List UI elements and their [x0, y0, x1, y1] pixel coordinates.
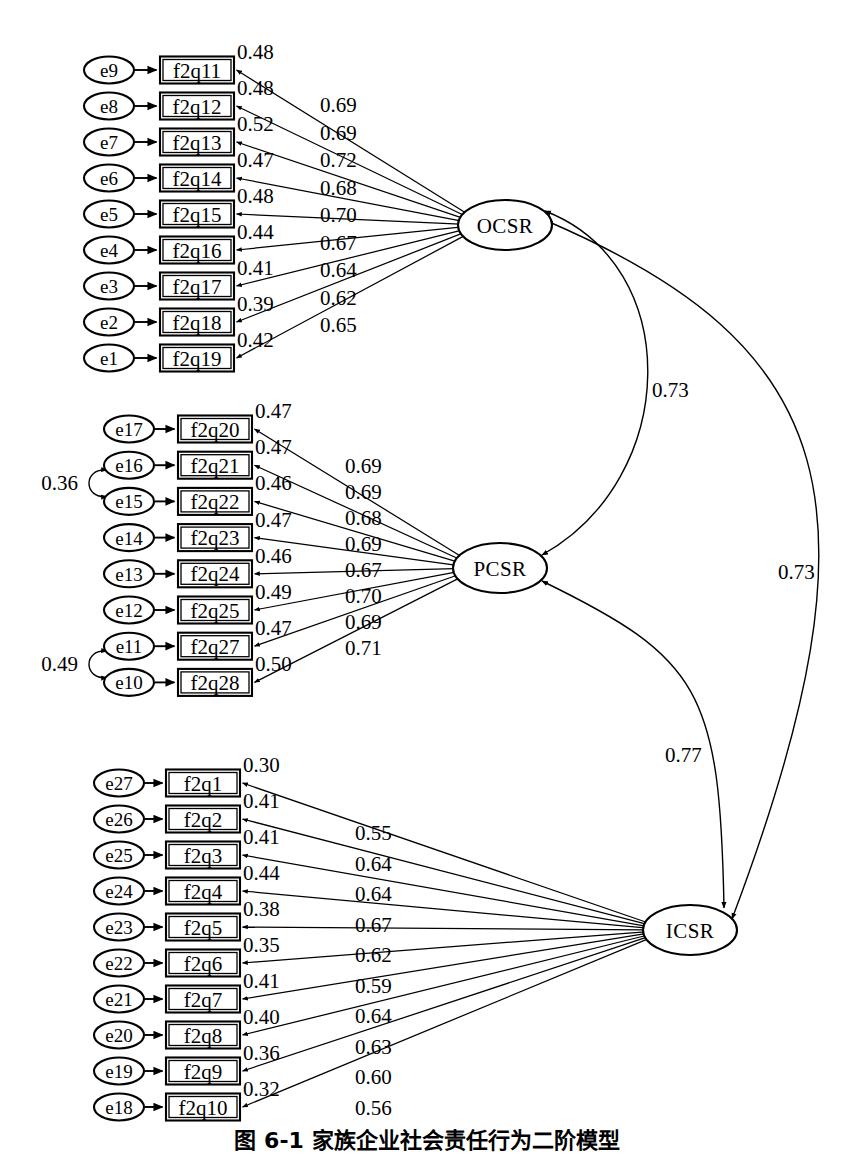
factor-loading-arrow: [243, 783, 648, 923]
error-label: e15: [115, 491, 142, 512]
r-squared-label: 0.47: [255, 616, 292, 640]
r-squared-label: 0.46: [255, 471, 292, 495]
loading-value-label: 0.64: [355, 882, 392, 906]
loading-value-label: 0.72: [320, 148, 357, 172]
error-covariance-label: 0.36: [41, 471, 78, 495]
r-squared-label: 0.47: [255, 435, 292, 459]
r-squared-label: 0.30: [243, 753, 280, 777]
loading-value-label: 0.64: [320, 258, 357, 282]
error-label: e9: [100, 60, 118, 81]
factor-correlation-label-ocsr-icsr: 0.73: [778, 560, 815, 584]
loading-value-label: 0.55: [355, 821, 392, 845]
error-label: e5: [100, 204, 118, 225]
indicator-label: f2q22: [191, 490, 240, 514]
figure-caption: 图 6-1 家族企业社会责任行为二阶模型: [234, 1128, 619, 1153]
loading-value-label: 0.62: [320, 286, 357, 310]
indicator-label: f2q15: [173, 203, 222, 227]
error-label: e20: [105, 1025, 132, 1046]
error-label: e10: [115, 672, 142, 693]
factor-loading-arrow: [243, 934, 646, 999]
loading-value-label: 0.63: [355, 1035, 392, 1059]
error-label: e11: [116, 636, 143, 657]
sem-path-diagram: f2q11e9f2q12e8f2q13e7f2q14e6f2q15e5f2q16…: [0, 0, 854, 1156]
indicator-label: f2q21: [191, 454, 240, 478]
loading-value-label: 0.70: [320, 203, 357, 227]
error-label: e27: [105, 773, 132, 794]
factor-correlation-label-pcsr-icsr: 0.77: [665, 743, 702, 767]
error-label: e2: [100, 312, 118, 333]
loading-value-label: 0.67: [320, 231, 357, 255]
r-squared-label: 0.48: [237, 76, 274, 100]
factor-loading-arrow: [243, 855, 646, 926]
error-label: e4: [100, 240, 118, 261]
loading-value-label: 0.62: [355, 943, 392, 967]
factor-loading-arrow: [243, 939, 649, 1107]
indicator-label: f2q1: [184, 772, 223, 796]
nodes-layer: f2q11e9f2q12e8f2q13e7f2q14e6f2q15e5f2q16…: [84, 57, 737, 1121]
r-squared-label: 0.39: [237, 292, 274, 316]
error-label: e8: [100, 96, 118, 117]
loading-value-label: 0.70: [345, 584, 382, 608]
indicator-label: f2q27: [191, 635, 240, 659]
indicator-label: f2q18: [173, 311, 222, 335]
factor-loading-arrow: [243, 819, 647, 924]
indicator-label: f2q9: [184, 1060, 223, 1084]
error-label: e19: [105, 1061, 132, 1082]
loading-value-label: 0.64: [355, 852, 392, 876]
error-covariance-arc: [89, 470, 107, 497]
indicator-label: f2q17: [173, 275, 222, 299]
loading-value-label: 0.69: [345, 480, 382, 504]
r-squared-label: 0.32: [243, 1077, 280, 1101]
r-squared-label: 0.44: [243, 861, 280, 885]
r-squared-label: 0.41: [243, 789, 280, 813]
loading-value-label: 0.69: [345, 532, 382, 556]
error-covariance-label: 0.49: [41, 652, 78, 676]
indicator-label: f2q24: [191, 562, 240, 586]
indicator-label: f2q2: [184, 808, 223, 832]
loading-value-label: 0.59: [355, 974, 392, 998]
r-squared-label: 0.41: [243, 969, 280, 993]
error-label: e12: [115, 600, 142, 621]
error-label: e23: [105, 917, 132, 938]
factor-loading-arrow: [243, 927, 645, 930]
indicator-label: f2q6: [184, 952, 223, 976]
indicator-label: f2q13: [173, 131, 222, 155]
r-squared-label: 0.44: [237, 220, 274, 244]
loading-value-label: 0.56: [355, 1096, 392, 1120]
labels-layer: 0.480.480.520.470.480.440.410.390.420.69…: [41, 40, 815, 1120]
diagram-canvas: f2q11e9f2q12e8f2q13e7f2q14e6f2q15e5f2q16…: [0, 0, 854, 1156]
r-squared-label: 0.35: [243, 933, 280, 957]
indicator-label: f2q3: [184, 844, 223, 868]
error-label: e14: [115, 528, 143, 549]
indicator-label: f2q12: [173, 95, 222, 119]
error-label: e1: [100, 348, 118, 369]
latent-factor-label: ICSR: [666, 919, 714, 943]
loading-value-label: 0.69: [345, 610, 382, 634]
loading-value-label: 0.71: [345, 636, 382, 660]
loading-value-label: 0.69: [320, 121, 357, 145]
r-squared-label: 0.41: [237, 256, 274, 280]
error-label: e3: [100, 276, 118, 297]
r-squared-label: 0.49: [255, 580, 292, 604]
factor-loading-arrow: [243, 891, 646, 928]
error-label: e26: [105, 809, 132, 830]
r-squared-label: 0.46: [255, 544, 292, 568]
indicator-label: f2q16: [173, 239, 222, 263]
r-squared-label: 0.47: [255, 399, 292, 423]
indicator-label: f2q14: [173, 167, 222, 191]
indicator-label: f2q28: [191, 671, 240, 695]
loading-value-label: 0.64: [355, 1004, 392, 1028]
r-squared-label: 0.38: [243, 897, 280, 921]
error-label: e24: [105, 881, 133, 902]
factor-loading-arrow: [243, 935, 647, 1035]
loading-value-label: 0.67: [345, 558, 382, 582]
error-label: e6: [100, 168, 118, 189]
r-squared-label: 0.47: [237, 148, 274, 172]
r-squared-label: 0.50: [255, 652, 292, 676]
loading-value-label: 0.68: [345, 506, 382, 530]
indicator-label: f2q8: [184, 1024, 223, 1048]
error-label: e13: [115, 564, 142, 585]
r-squared-label: 0.48: [237, 184, 274, 208]
r-squared-label: 0.36: [243, 1041, 280, 1065]
factor-loading-arrow: [243, 937, 647, 1071]
